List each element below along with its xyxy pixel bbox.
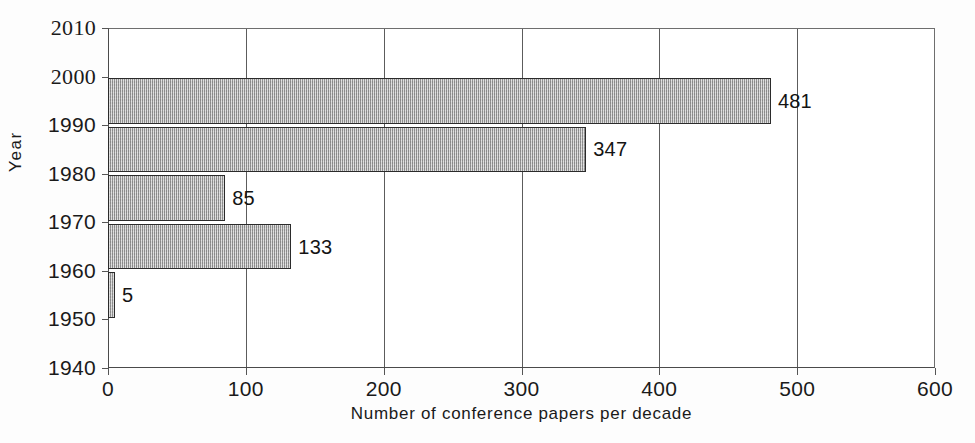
x-tick-200 (384, 368, 385, 375)
bar-1990 (108, 78, 771, 124)
y-tick-1970 (102, 222, 109, 223)
x-tick-0 (108, 368, 109, 375)
x-tick-label-400: 400 (619, 378, 699, 399)
bar-value-label-1960: 133 (298, 237, 332, 257)
y-tick-label-2010: 2010 (51, 17, 96, 39)
y-tick-2010 (102, 28, 109, 29)
x-tick-label-100: 100 (206, 378, 286, 399)
bar-1960 (108, 224, 291, 270)
gridline-x-500 (797, 29, 798, 367)
x-tick-500 (797, 368, 798, 375)
y-axis-title: Year (6, 131, 26, 172)
bar-value-label-1980: 347 (593, 139, 627, 159)
x-tick-400 (659, 368, 660, 375)
page-caption-strip (250, 436, 890, 443)
x-tick-label-500: 500 (757, 378, 837, 399)
y-tick-1990 (102, 125, 109, 126)
y-tick-1960 (102, 271, 109, 272)
x-tick-100 (246, 368, 247, 375)
bar-1950 (108, 272, 115, 318)
bar-value-label-1990: 481 (778, 91, 812, 111)
y-tick-label-1980: 1980 (48, 163, 96, 184)
bar-value-label-1950: 5 (122, 285, 133, 305)
x-tick-600 (935, 368, 936, 375)
y-tick-label-1970: 1970 (48, 211, 96, 232)
y-tick-label-1940: 1940 (48, 357, 96, 378)
y-tick-label-1960: 1960 (48, 260, 96, 281)
y-tick-1950 (102, 319, 109, 320)
x-axis-title: Number of conference papers per decade (108, 404, 935, 424)
x-tick-label-300: 300 (482, 378, 562, 399)
x-tick-300 (522, 368, 523, 375)
y-tick-label-2000: 2000 (51, 66, 96, 88)
y-tick-label-1950: 1950 (48, 308, 96, 329)
x-tick-label-0: 0 (68, 378, 148, 399)
y-tick-2000 (102, 77, 109, 78)
bar-1970 (108, 175, 225, 221)
y-tick-label-1990: 1990 (48, 114, 96, 135)
bar-1980 (108, 127, 586, 173)
x-tick-label-200: 200 (344, 378, 424, 399)
y-tick-1980 (102, 174, 109, 175)
bar-chart-figure: 513385347481 201020001990198019701960195… (0, 0, 975, 443)
bar-value-label-1970: 85 (232, 188, 255, 208)
x-tick-label-600: 600 (895, 378, 975, 399)
